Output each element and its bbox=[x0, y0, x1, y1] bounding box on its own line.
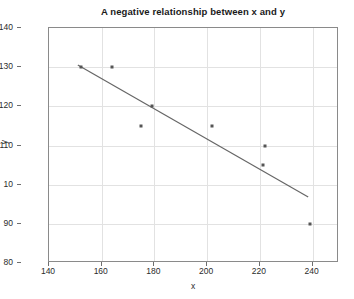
datapoint bbox=[79, 66, 82, 69]
gridline-vertical bbox=[260, 28, 261, 261]
x-axis-tick: 200 bbox=[186, 266, 226, 276]
y-axis-tick: 120 bbox=[0, 100, 13, 110]
gridline-vertical bbox=[207, 28, 208, 261]
gridline-vertical bbox=[102, 28, 103, 261]
gridline-vertical bbox=[313, 28, 314, 261]
datapoint bbox=[211, 124, 214, 127]
y-axis-tick-mark bbox=[17, 184, 21, 185]
chart-title: A negative relationship between x and y bbox=[48, 6, 338, 17]
y-axis-tick: 140 bbox=[0, 22, 13, 32]
gridline-horizontal bbox=[49, 146, 337, 147]
y-axis-tick: 130 bbox=[0, 61, 13, 71]
datapoint bbox=[111, 66, 114, 69]
trendline-segment bbox=[78, 65, 308, 197]
datapoint bbox=[261, 164, 264, 167]
x-axis-tick-mark bbox=[153, 262, 154, 266]
y-axis-tick-mark bbox=[17, 27, 21, 28]
x-axis-tick-mark bbox=[101, 262, 102, 266]
x-axis-tick: 160 bbox=[81, 266, 121, 276]
x-axis-tick: 240 bbox=[292, 266, 332, 276]
chart-figure: A negative relationship between x and y … bbox=[0, 0, 354, 299]
y-axis-label: y bbox=[0, 140, 9, 144]
gridline-horizontal bbox=[49, 106, 337, 107]
y-axis-tick: 90 bbox=[0, 218, 13, 228]
x-axis-tick-mark bbox=[312, 262, 313, 266]
datapoint bbox=[264, 144, 267, 147]
y-axis-tick: 10 bbox=[0, 179, 13, 189]
datapoint bbox=[309, 222, 312, 225]
y-axis-tick-mark bbox=[17, 262, 21, 263]
datapoint bbox=[140, 124, 143, 127]
y-axis-tick-mark bbox=[17, 223, 21, 224]
datapoint bbox=[150, 105, 153, 108]
x-axis-tick-mark bbox=[259, 262, 260, 266]
y-axis-tick-mark bbox=[17, 145, 21, 146]
x-axis-tick: 140 bbox=[28, 266, 68, 276]
y-axis-tick-mark bbox=[17, 66, 21, 67]
y-axis-tick: 80 bbox=[0, 257, 13, 267]
x-axis-tick-mark bbox=[48, 262, 49, 266]
plot-area bbox=[48, 27, 338, 262]
x-axis-label: x bbox=[48, 281, 338, 291]
gridline-vertical bbox=[154, 28, 155, 261]
x-axis-tick-mark bbox=[206, 262, 207, 266]
gridline-horizontal bbox=[49, 185, 337, 186]
gridline-horizontal bbox=[49, 67, 337, 68]
x-axis-tick: 180 bbox=[133, 266, 173, 276]
x-axis-tick: 220 bbox=[239, 266, 279, 276]
trendline bbox=[49, 28, 337, 261]
y-axis-tick-mark bbox=[17, 105, 21, 106]
gridline-horizontal bbox=[49, 224, 337, 225]
